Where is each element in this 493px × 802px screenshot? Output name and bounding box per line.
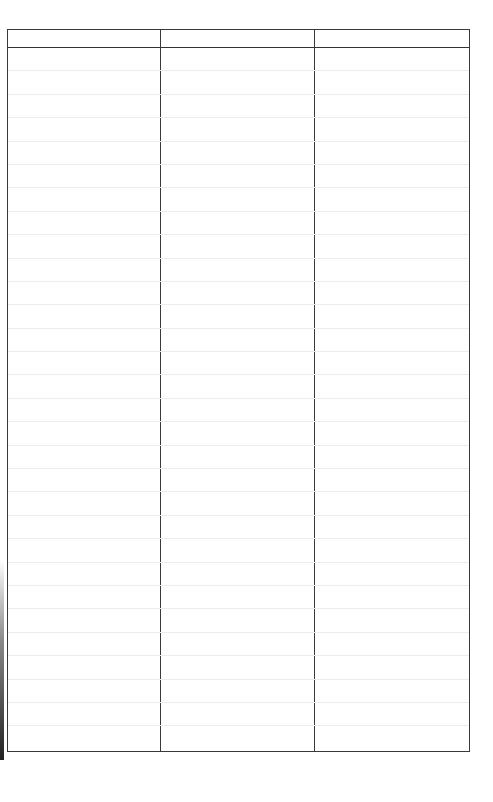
table-cell bbox=[160, 633, 314, 655]
table-cell bbox=[315, 235, 469, 257]
table-body bbox=[8, 48, 469, 751]
table-row bbox=[8, 142, 469, 165]
table-cell bbox=[160, 656, 314, 678]
table-cell bbox=[160, 492, 314, 514]
table-row bbox=[8, 446, 469, 469]
table-cell bbox=[160, 516, 314, 538]
table-cell bbox=[160, 329, 314, 351]
table-row bbox=[8, 118, 469, 141]
table-header-row bbox=[8, 30, 469, 48]
table-cell bbox=[8, 71, 160, 93]
table-cell bbox=[8, 703, 160, 725]
table-cell bbox=[160, 703, 314, 725]
table-cell bbox=[315, 492, 469, 514]
header-cell-3 bbox=[315, 30, 469, 47]
table-row bbox=[8, 71, 469, 94]
table-cell bbox=[8, 680, 160, 702]
table-cell bbox=[315, 422, 469, 444]
table-row bbox=[8, 422, 469, 445]
table-cell bbox=[315, 375, 469, 397]
table-cell bbox=[160, 142, 314, 164]
table-cell bbox=[160, 212, 314, 234]
table-row bbox=[8, 235, 469, 258]
table-cell bbox=[160, 586, 314, 608]
table-cell bbox=[8, 633, 160, 655]
table-cell bbox=[8, 235, 160, 257]
table-cell bbox=[315, 633, 469, 655]
table-cell bbox=[8, 375, 160, 397]
table-cell bbox=[8, 446, 160, 468]
table-cell bbox=[160, 48, 314, 70]
table-row bbox=[8, 48, 469, 71]
header-cell-2 bbox=[160, 30, 314, 47]
table-cell bbox=[315, 188, 469, 210]
header-cell-1 bbox=[8, 30, 160, 47]
table-row bbox=[8, 375, 469, 398]
table-cell bbox=[315, 516, 469, 538]
table-cell bbox=[315, 71, 469, 93]
table-cell bbox=[160, 95, 314, 117]
table-cell bbox=[8, 329, 160, 351]
table-cell bbox=[315, 726, 469, 749]
table-cell bbox=[8, 586, 160, 608]
table-row bbox=[8, 95, 469, 118]
table-cell bbox=[8, 142, 160, 164]
table-row bbox=[8, 656, 469, 679]
table-row bbox=[8, 329, 469, 352]
table-cell bbox=[8, 48, 160, 70]
table-cell bbox=[8, 399, 160, 421]
table-cell bbox=[160, 609, 314, 631]
table-row bbox=[8, 516, 469, 539]
table-cell bbox=[8, 188, 160, 210]
table-cell bbox=[315, 656, 469, 678]
table-cell bbox=[315, 399, 469, 421]
table-cell bbox=[160, 71, 314, 93]
table-row bbox=[8, 703, 469, 726]
scan-edge-shadow bbox=[0, 560, 4, 760]
table-cell bbox=[315, 563, 469, 585]
table-cell bbox=[160, 259, 314, 281]
table-cell bbox=[315, 48, 469, 70]
table-cell bbox=[160, 680, 314, 702]
table-row bbox=[8, 726, 469, 749]
table-cell bbox=[315, 703, 469, 725]
table-cell bbox=[315, 609, 469, 631]
table-row bbox=[8, 563, 469, 586]
table-row bbox=[8, 539, 469, 562]
table-cell bbox=[8, 305, 160, 327]
table-cell bbox=[160, 282, 314, 304]
table-cell bbox=[315, 212, 469, 234]
table-cell bbox=[315, 539, 469, 561]
ruled-table bbox=[7, 29, 470, 752]
table-cell bbox=[8, 259, 160, 281]
table-cell bbox=[315, 259, 469, 281]
table-cell bbox=[160, 375, 314, 397]
table-cell bbox=[160, 726, 314, 749]
table-row bbox=[8, 352, 469, 375]
table-cell bbox=[315, 165, 469, 187]
table-cell bbox=[315, 305, 469, 327]
table-row bbox=[8, 469, 469, 492]
table-cell bbox=[160, 188, 314, 210]
table-cell bbox=[8, 469, 160, 491]
table-cell bbox=[8, 422, 160, 444]
table-row bbox=[8, 188, 469, 211]
table-cell bbox=[315, 142, 469, 164]
table-cell bbox=[8, 165, 160, 187]
table-cell bbox=[160, 422, 314, 444]
table-cell bbox=[315, 680, 469, 702]
table-cell bbox=[160, 235, 314, 257]
table-row bbox=[8, 305, 469, 328]
table-cell bbox=[160, 399, 314, 421]
table-cell bbox=[315, 118, 469, 140]
table-cell bbox=[160, 165, 314, 187]
table-cell bbox=[315, 446, 469, 468]
table-cell bbox=[160, 118, 314, 140]
table-row bbox=[8, 259, 469, 282]
table-cell bbox=[315, 329, 469, 351]
table-row bbox=[8, 492, 469, 515]
table-row bbox=[8, 212, 469, 235]
table-cell bbox=[315, 352, 469, 374]
table-cell bbox=[8, 95, 160, 117]
table-cell bbox=[315, 586, 469, 608]
